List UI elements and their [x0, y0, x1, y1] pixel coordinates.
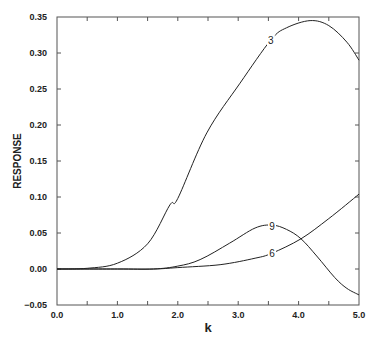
y-tick-label: 0.20: [29, 120, 47, 130]
curve-3: [57, 21, 359, 269]
curve-6: [57, 194, 359, 269]
y-tick-label: 0.00: [29, 264, 47, 274]
x-tick-label: 5.0: [353, 310, 366, 320]
plot-frame: [57, 17, 359, 305]
y-tick-label: 0.10: [29, 192, 47, 202]
curve-label-6: 6: [269, 248, 275, 259]
y-tick-label: 0.05: [29, 228, 47, 238]
y-tick-label: 0.35: [29, 12, 47, 22]
line-chart: −0.050.000.050.100.150.200.250.300.35 0.…: [0, 0, 377, 339]
curve-label-9: 9: [269, 221, 275, 232]
x-tick-label: 2.0: [172, 310, 185, 320]
y-axis-ticks: −0.050.000.050.100.150.200.250.300.35: [24, 12, 359, 310]
x-tick-label: 4.0: [292, 310, 305, 320]
curve-label-3: 3: [268, 35, 274, 46]
y-tick-label: 0.30: [29, 48, 47, 58]
x-tick-label: 0.0: [51, 310, 64, 320]
x-axis-ticks: 0.01.02.03.04.05.0: [51, 17, 366, 320]
x-tick-label: 3.0: [232, 310, 245, 320]
y-tick-label: −0.05: [24, 300, 47, 310]
y-tick-label: 0.25: [29, 84, 47, 94]
x-axis-title: k: [204, 320, 212, 335]
curves: 396: [57, 21, 359, 295]
x-tick-label: 1.0: [111, 310, 124, 320]
y-tick-label: 0.15: [29, 156, 47, 166]
curve-9: [57, 225, 359, 295]
y-axis-title: RESPONSE: [12, 133, 23, 189]
